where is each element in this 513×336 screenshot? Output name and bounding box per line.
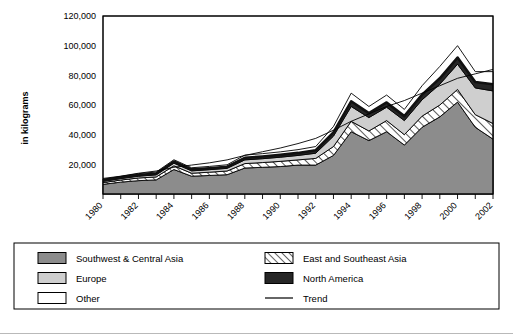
stacked-area-chart: in kilograms 120,000100,00080,00060,0004… (0, 0, 513, 336)
bottom-divider (0, 333, 513, 334)
legend-item-label: Europe (76, 273, 107, 284)
y-axis-title: in kilograms (20, 91, 30, 144)
legend-item-label: Southwest & Central Asia (76, 253, 184, 264)
legend-swatch (265, 253, 293, 264)
x-axis-tick-label: 1994 (331, 200, 352, 221)
legend-item-label: North America (303, 273, 364, 284)
x-axis-tick-label: 1996 (367, 200, 388, 221)
chart-page: in kilograms 120,000100,00080,00060,0004… (0, 0, 513, 336)
legend-swatch (38, 273, 66, 284)
x-axis-tick-label: 1986 (190, 200, 211, 221)
x-axis-tick-label: 1998 (402, 200, 423, 221)
legend-swatch (38, 253, 66, 264)
y-axis-tick-label: 60,000 (68, 100, 96, 110)
x-axis-tick-label: 1980 (83, 200, 104, 221)
legend-item-label: Other (76, 293, 100, 304)
legend-swatch (265, 273, 293, 284)
x-axis-tick-label: 1992 (296, 200, 317, 221)
y-axis-tick-label: 40,000 (68, 130, 96, 140)
y-axis-tick-label: 20,000 (68, 160, 96, 170)
x-axis-tick-label: 2002 (473, 200, 494, 221)
y-axis-tick-label: 80,000 (68, 71, 96, 81)
y-axis-title-text: in kilograms (20, 91, 30, 144)
x-axis-tick-label: 1990 (260, 200, 281, 221)
y-axis-tick-label: 100,000 (63, 41, 96, 51)
legend-swatch (38, 293, 66, 304)
y-axis-tick-label: 120,000 (63, 11, 96, 21)
x-axis-tick-label: 2000 (438, 200, 459, 221)
x-axis-tick-label: 1984 (154, 200, 175, 221)
x-axis: 1980198219841986198819901992199419961998… (83, 194, 494, 222)
legend-item-label: East and Southeast Asia (303, 253, 407, 264)
x-axis-tick-label: 1988 (225, 200, 246, 221)
legend-item-label: Trend (303, 293, 327, 304)
x-axis-tick-label: 1982 (119, 200, 140, 221)
